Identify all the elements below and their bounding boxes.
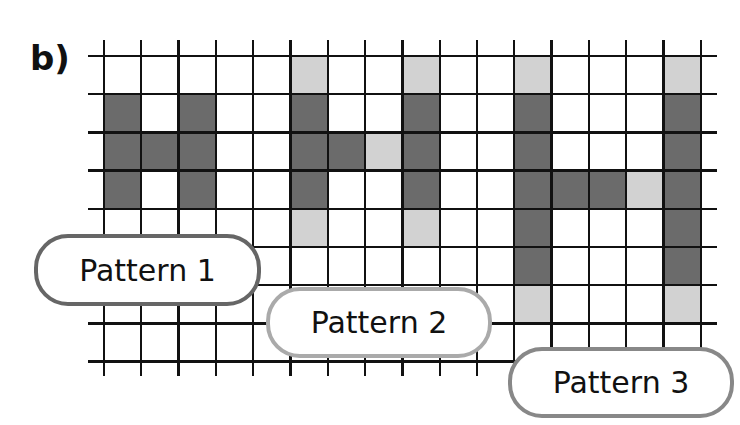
pattern-1-dark-cell: [104, 171, 141, 209]
pattern-3-light-cell: [664, 285, 701, 323]
pattern-3-dark-cell: [514, 209, 551, 247]
grid-line-horizontal: [88, 208, 717, 210]
pattern-3-dark-cell: [514, 94, 551, 132]
pattern-2-dark-cell: [402, 132, 439, 170]
pattern-3-dark-cell: [552, 171, 589, 209]
pattern-2-light-cell: [291, 209, 328, 247]
pattern-2-light-cell: [402, 56, 439, 94]
pattern-2-dark-cell: [328, 132, 365, 170]
pattern-3-dark-cell: [664, 132, 701, 170]
pattern-2-light-cell: [402, 209, 439, 247]
pattern-2-dark-cell: [291, 94, 328, 132]
pattern-1-label: Pattern 1: [34, 234, 261, 306]
pattern-3-dark-cell: [664, 171, 701, 209]
pattern-1-dark-cell: [141, 132, 178, 170]
grid-line-horizontal: [88, 55, 717, 57]
pattern-2-light-cell: [365, 132, 402, 170]
pattern-3-light-cell: [514, 56, 551, 94]
grid-line-horizontal: [88, 93, 717, 95]
pattern-3-light-cell: [626, 171, 663, 209]
pattern-3-dark-cell: [664, 94, 701, 132]
pattern-2-label: Pattern 2: [266, 287, 492, 358]
pattern-3-light-cell: [664, 56, 701, 94]
pattern-3-light-cell: [514, 285, 551, 323]
pattern-2-dark-cell: [291, 171, 328, 209]
pattern-2-dark-cell: [402, 171, 439, 209]
pattern-3-dark-cell: [664, 247, 701, 285]
pattern-2-dark-cell: [291, 132, 328, 170]
grid-line-horizontal: [88, 169, 717, 171]
pattern-1-dark-cell: [179, 94, 216, 132]
pattern-1-dark-cell: [104, 132, 141, 170]
pattern-2-light-cell: [291, 56, 328, 94]
pattern-1-dark-cell: [179, 171, 216, 209]
pattern-2-dark-cell: [402, 94, 439, 132]
pattern-1-dark-cell: [179, 132, 216, 170]
grid-line-horizontal: [88, 131, 717, 133]
pattern-3-dark-cell: [514, 247, 551, 285]
pattern-3-dark-cell: [664, 209, 701, 247]
pattern-3-dark-cell: [514, 171, 551, 209]
pattern-3-label: Pattern 3: [508, 347, 734, 418]
pattern-3-dark-cell: [589, 171, 626, 209]
pattern-3-dark-cell: [514, 132, 551, 170]
pattern-1-dark-cell: [104, 94, 141, 132]
